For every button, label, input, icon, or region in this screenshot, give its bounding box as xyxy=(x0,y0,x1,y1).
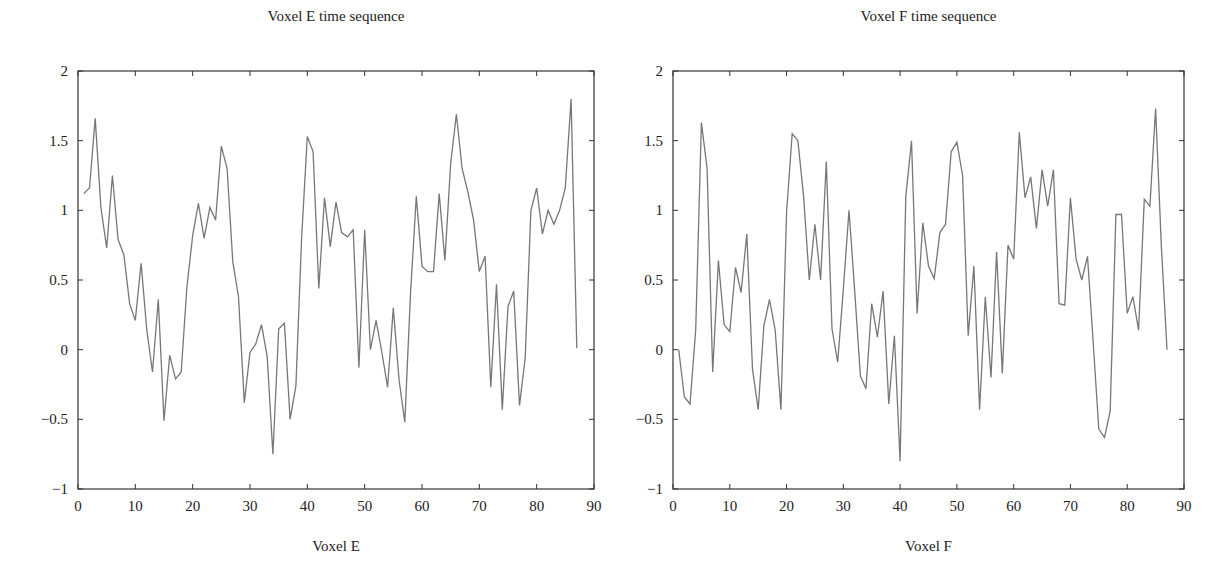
x-tick-label: 30 xyxy=(836,498,851,514)
time-series-line xyxy=(679,109,1167,462)
y-tick-label: 1.5 xyxy=(644,133,663,149)
x-tick-label: 70 xyxy=(1063,498,1078,514)
y-tick-label: 2 xyxy=(656,63,664,79)
y-tick-label: 0 xyxy=(656,342,664,358)
voxel-f-chart: Voxel F time sequence 010203040506070809… xyxy=(0,0,1217,577)
x-tick-label: 80 xyxy=(1120,498,1135,514)
x-tick-label: 20 xyxy=(779,498,794,514)
x-tick-label: 50 xyxy=(949,498,964,514)
y-tick-label: −1 xyxy=(647,481,663,497)
y-tick-label: 0.5 xyxy=(644,272,663,288)
y-tick-label: 1 xyxy=(656,202,664,218)
y-tick-label: −0.5 xyxy=(636,411,663,427)
plot-area: 0102030405060708090−1−0.500.511.52 xyxy=(0,0,1217,577)
x-tick-label: 40 xyxy=(893,498,908,514)
x-tick-label: 60 xyxy=(1006,498,1021,514)
x-tick-label: 90 xyxy=(1177,498,1192,514)
x-axis-label: Voxel F xyxy=(673,538,1184,555)
x-tick-label: 10 xyxy=(722,498,737,514)
x-tick-label: 0 xyxy=(669,498,677,514)
